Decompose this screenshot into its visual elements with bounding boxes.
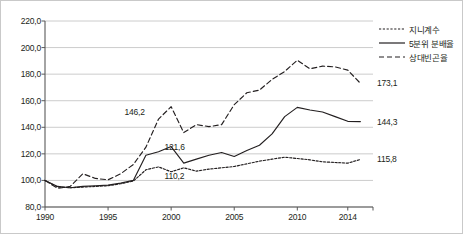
series-end-label: 144,3 xyxy=(377,117,397,127)
series-line-2 xyxy=(45,60,360,188)
x-axis-tick-label: 2010 xyxy=(277,212,317,222)
legend-item-1[interactable]: 5분위 분배율 xyxy=(379,37,454,49)
data-point-label: 121,6 xyxy=(165,142,185,152)
legend-label: 상대빈곤율 xyxy=(409,51,448,63)
legend-swatch-dashed-icon xyxy=(379,53,405,61)
data-point-label: 146,2 xyxy=(125,107,145,117)
series-end-label: 173,1 xyxy=(377,78,397,88)
x-axis-tick-label: 2005 xyxy=(214,212,254,222)
legend-item-0[interactable]: 지니계수 xyxy=(379,23,440,35)
plot-area xyxy=(45,21,373,207)
x-axis-tick-label: 2000 xyxy=(151,212,191,222)
x-axis-tick-label: 2014 xyxy=(328,212,368,222)
series-end-label: 115,8 xyxy=(377,154,397,164)
y-axis-tick-label: 200,0 xyxy=(1,43,41,53)
legend-swatch-solid-icon xyxy=(379,39,405,47)
legend-label: 5분위 분배율 xyxy=(409,37,454,49)
y-axis-tick-label: 180,0 xyxy=(1,69,41,79)
data-point-label: 110,2 xyxy=(165,171,185,181)
series-line-0 xyxy=(45,157,360,188)
y-axis-tick-label: 220,0 xyxy=(1,16,41,26)
chart-canvas xyxy=(45,21,373,207)
y-axis-tick-label: 100,0 xyxy=(1,175,41,185)
chart-figure: 80,0100,0120,0140,0160,0180,0200,0220,0 … xyxy=(0,0,463,234)
y-axis-tick-label: 120,0 xyxy=(1,149,41,159)
series-line-1 xyxy=(45,107,360,187)
legend-item-2[interactable]: 상대빈곤율 xyxy=(379,51,448,63)
x-axis-tick-label: 1995 xyxy=(88,212,128,222)
y-axis-tick-label: 160,0 xyxy=(1,96,41,106)
y-axis-tick-label: 80,0 xyxy=(1,202,41,212)
y-axis-tick-label: 140,0 xyxy=(1,122,41,132)
legend-label: 지니계수 xyxy=(409,23,440,35)
legend-swatch-dotted-icon xyxy=(379,25,405,33)
x-axis-tick-label: 1990 xyxy=(25,212,65,222)
